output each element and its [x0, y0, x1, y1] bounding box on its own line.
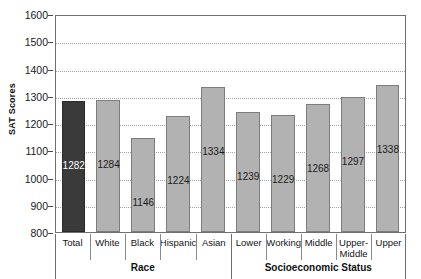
bar[interactable]: 1284: [96, 100, 120, 232]
bar-series: 1282128411461224133412391229126812971338: [56, 16, 405, 232]
bar[interactable]: 1297: [341, 97, 365, 232]
y-tick-mark: [48, 124, 53, 125]
y-tick-label: 1200: [14, 119, 48, 129]
category-label: Hispanic: [160, 234, 196, 260]
bar-value-label: 1229: [272, 174, 294, 185]
bar-value-label: 1334: [202, 146, 224, 157]
y-tick-mark: [48, 15, 53, 16]
bar-value-label: 1239: [237, 171, 259, 182]
bar[interactable]: 1334: [201, 87, 225, 233]
bar-slot: 1284: [91, 16, 126, 232]
y-tick-label: 900: [14, 201, 48, 211]
bar[interactable]: 1268: [306, 104, 330, 232]
bar-slot: 1297: [335, 16, 370, 232]
y-tick-mark: [48, 179, 53, 180]
y-tick-mark: [48, 42, 53, 43]
category-label: Asian: [196, 234, 231, 260]
plot-area: 1282128411461224133412391229126812971338: [55, 15, 406, 233]
bar[interactable]: 1338: [376, 85, 400, 232]
y-tick-label: 1100: [14, 146, 48, 156]
bar-value-label: 1224: [167, 175, 189, 186]
bar-slot: 1282: [56, 16, 91, 232]
bar-slot: 1239: [231, 16, 266, 232]
y-tick-mark: [48, 97, 53, 98]
sat-scores-bar-chart: SAT Scores 16001500140013001200110010009…: [0, 0, 421, 279]
category-label: White: [90, 234, 125, 260]
bar-slot: 1334: [196, 16, 231, 232]
bar-slot: 1268: [300, 16, 335, 232]
bar-slot: 1229: [265, 16, 300, 232]
y-tick-label: 1600: [14, 10, 48, 20]
bar-slot: 1146: [126, 16, 161, 232]
category-labels: TotalWhiteBlackHispanicAsianLowerWorking…: [55, 234, 406, 260]
category-label: Black: [125, 234, 160, 260]
y-tick-label: 1400: [14, 65, 48, 75]
bar[interactable]: 1282: [62, 101, 86, 232]
group-title: Socioeconomic Status: [231, 260, 407, 279]
bar-value-label: 1297: [342, 156, 364, 167]
bar-value-label: 1146: [132, 197, 154, 208]
category-label: Lower: [231, 234, 266, 260]
bar-value-label: 1284: [97, 159, 119, 170]
y-tick-mark: [48, 233, 53, 234]
bar-slot: 1224: [161, 16, 196, 232]
y-tick-mark: [48, 70, 53, 71]
y-tick-mark: [48, 151, 53, 152]
y-tick-label: 1500: [14, 37, 48, 47]
category-label: Upper-​Middle: [336, 234, 371, 260]
bar[interactable]: 1239: [236, 112, 260, 232]
group-labels: RaceSocioeconomic Status: [55, 260, 406, 279]
bar-slot: 1338: [370, 16, 405, 232]
category-label: Middle: [301, 234, 336, 260]
bar-value-label: 1338: [377, 144, 399, 155]
y-axis-tick-labels: 1600150014001300120011001000900800: [12, 0, 48, 279]
category-label: Working: [266, 234, 301, 260]
group-title: Race: [55, 260, 231, 279]
category-label: Upper: [371, 234, 406, 260]
bar[interactable]: 1229: [271, 115, 295, 232]
category-label: Total: [55, 234, 90, 260]
y-tick-label: 1000: [14, 174, 48, 184]
y-tick-mark: [48, 206, 53, 207]
bar-value-label: 1282: [63, 160, 85, 171]
y-tick-label: 1300: [14, 92, 48, 102]
bar[interactable]: 1146: [131, 138, 155, 232]
bar-value-label: 1268: [307, 163, 329, 174]
y-tick-label: 800: [14, 228, 48, 238]
bar[interactable]: 1224: [166, 116, 190, 232]
